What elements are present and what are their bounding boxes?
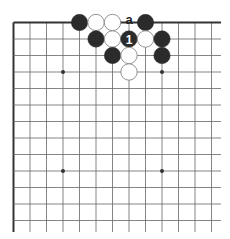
- star-point: [160, 70, 164, 74]
- black-stone: 1: [121, 31, 137, 47]
- stone-disc: [121, 47, 137, 63]
- stone-disc: [137, 14, 153, 30]
- white-stone: [121, 64, 137, 80]
- black-stone: [137, 14, 153, 30]
- stone-disc: [104, 31, 120, 47]
- white-stone: [121, 47, 137, 63]
- stone-disc: [71, 14, 87, 30]
- stone-disc: [104, 14, 120, 30]
- point-labels: a: [125, 12, 133, 27]
- white-stone: [104, 31, 120, 47]
- star-point: [160, 169, 164, 173]
- black-stone: [71, 14, 87, 30]
- black-stone: [104, 47, 120, 63]
- go-board: 1 a: [0, 0, 230, 239]
- stone-disc: [137, 31, 153, 47]
- stone-disc: [88, 14, 104, 30]
- white-stone: [104, 14, 120, 30]
- star-point: [61, 169, 65, 173]
- point-label: a: [125, 12, 133, 27]
- move-number: 1: [126, 33, 133, 47]
- star-point: [61, 70, 65, 74]
- black-stone: [154, 47, 170, 63]
- stone-disc: [154, 47, 170, 63]
- stones: 1: [71, 14, 170, 80]
- stone-disc: [121, 64, 137, 80]
- black-stone: [88, 31, 104, 47]
- white-stone: [137, 31, 153, 47]
- stone-disc: [154, 31, 170, 47]
- stone-disc: [88, 31, 104, 47]
- black-stone: [154, 31, 170, 47]
- white-stone: [88, 14, 104, 30]
- stone-disc: [104, 47, 120, 63]
